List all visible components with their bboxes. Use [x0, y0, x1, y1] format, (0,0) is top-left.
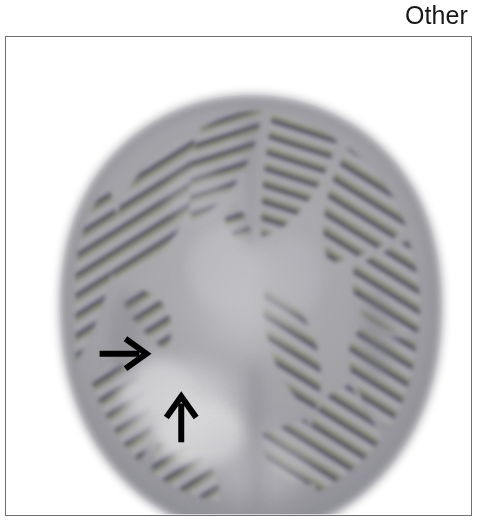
brain-scan-image [6, 37, 471, 515]
brain-parenchyma [6, 37, 471, 515]
scan-image-frame [5, 36, 472, 516]
figure-label: Other [405, 0, 468, 30]
